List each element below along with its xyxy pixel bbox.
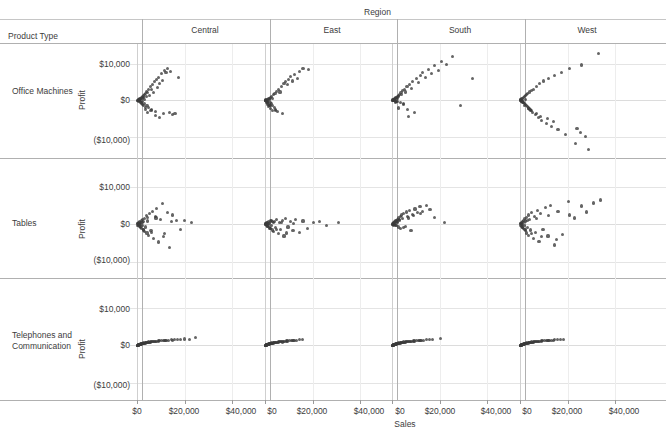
data-point[interactable] [281, 112, 284, 115]
data-point[interactable] [264, 99, 267, 102]
data-point[interactable] [188, 338, 191, 341]
data-point[interactable] [148, 94, 151, 97]
data-point[interactable] [158, 82, 161, 85]
data-point[interactable] [298, 70, 301, 73]
data-point[interactable] [545, 122, 548, 125]
data-point[interactable] [289, 75, 292, 78]
data-point[interactable] [549, 204, 552, 207]
data-point[interactable] [285, 340, 288, 343]
data-point[interactable] [146, 216, 149, 219]
data-point[interactable] [284, 217, 287, 220]
data-point[interactable] [278, 90, 281, 93]
data-point[interactable] [556, 210, 559, 213]
data-point[interactable] [408, 209, 411, 212]
data-point[interactable] [147, 234, 150, 237]
data-point[interactable] [140, 221, 143, 224]
data-point[interactable] [287, 78, 290, 81]
data-point[interactable] [158, 116, 161, 119]
data-point[interactable] [540, 119, 543, 122]
data-point[interactable] [532, 88, 535, 91]
data-point[interactable] [412, 340, 415, 343]
data-point[interactable] [146, 219, 149, 222]
data-point[interactable] [337, 221, 340, 224]
data-point[interactable] [162, 112, 165, 115]
data-point[interactable] [293, 73, 296, 76]
data-point[interactable] [580, 63, 583, 66]
data-point[interactable] [280, 221, 283, 224]
data-point[interactable] [532, 341, 535, 344]
data-point[interactable] [547, 214, 550, 217]
data-point[interactable] [150, 108, 153, 111]
data-point[interactable] [271, 97, 274, 100]
data-point[interactable] [156, 86, 159, 89]
data-point[interactable] [424, 76, 427, 79]
data-point[interactable] [146, 111, 149, 114]
data-point[interactable] [298, 231, 301, 234]
data-point[interactable] [291, 229, 294, 232]
data-point[interactable] [154, 110, 157, 113]
data-point[interactable] [530, 211, 533, 214]
data-point[interactable] [574, 142, 577, 145]
data-point[interactable] [410, 87, 413, 90]
data-point[interactable] [580, 204, 583, 207]
data-point[interactable] [409, 229, 412, 232]
data-point[interactable] [150, 231, 153, 234]
data-point[interactable] [532, 237, 535, 240]
data-point[interactable] [471, 77, 474, 80]
data-point[interactable] [301, 67, 304, 70]
data-point[interactable] [546, 117, 549, 120]
data-point[interactable] [291, 339, 294, 342]
data-point[interactable] [277, 232, 280, 235]
data-point[interactable] [411, 80, 414, 83]
data-point[interactable] [599, 198, 602, 201]
data-point[interactable] [398, 218, 401, 221]
data-point[interactable] [433, 216, 436, 219]
data-point[interactable] [402, 102, 405, 105]
data-point[interactable] [170, 220, 173, 223]
data-point[interactable] [282, 234, 285, 237]
data-point[interactable] [421, 71, 424, 74]
data-point[interactable] [546, 234, 549, 237]
data-point[interactable] [404, 341, 407, 344]
data-point[interactable] [268, 227, 271, 230]
data-point[interactable] [152, 91, 155, 94]
data-point[interactable] [271, 220, 274, 223]
data-point[interactable] [154, 114, 157, 117]
data-point[interactable] [190, 221, 193, 224]
data-point[interactable] [539, 212, 542, 215]
data-point[interactable] [296, 77, 299, 80]
data-point[interactable] [285, 231, 288, 234]
data-point[interactable] [177, 76, 180, 79]
data-point[interactable] [546, 339, 549, 342]
data-point[interactable] [575, 127, 578, 130]
data-point[interactable] [168, 111, 171, 114]
data-point[interactable] [530, 232, 533, 235]
data-point[interactable] [459, 104, 462, 107]
data-point[interactable] [171, 213, 174, 216]
data-point[interactable] [587, 148, 590, 151]
data-point[interactable] [159, 218, 162, 221]
data-point[interactable] [437, 69, 440, 72]
data-point[interactable] [286, 225, 289, 228]
data-point[interactable] [585, 210, 588, 213]
data-point[interactable] [169, 70, 172, 73]
data-point[interactable] [157, 76, 160, 79]
data-point[interactable] [538, 82, 541, 85]
data-point[interactable] [163, 339, 166, 342]
data-point[interactable] [152, 237, 155, 240]
data-point[interactable] [173, 112, 176, 115]
data-point[interactable] [175, 219, 178, 222]
data-point[interactable] [592, 201, 595, 204]
data-point[interactable] [279, 228, 282, 231]
data-point[interactable] [154, 216, 157, 219]
data-point[interactable] [312, 221, 315, 224]
data-point[interactable] [306, 227, 309, 230]
data-point[interactable] [194, 336, 197, 339]
data-point[interactable] [412, 214, 415, 217]
data-point[interactable] [556, 128, 559, 131]
data-point[interactable] [149, 341, 152, 344]
data-point[interactable] [430, 72, 433, 75]
data-point[interactable] [550, 125, 553, 128]
data-point[interactable] [325, 224, 328, 227]
data-point[interactable] [144, 106, 147, 109]
